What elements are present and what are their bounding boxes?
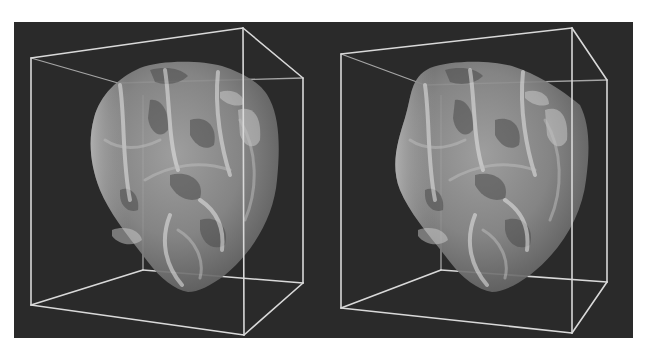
stereo-figure [0,0,649,348]
